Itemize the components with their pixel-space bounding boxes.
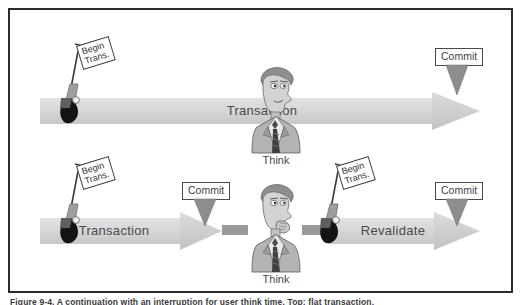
commit-down-arrow-row1: [442, 65, 476, 99]
commit-tag-row1: Commit: [435, 48, 483, 66]
thinking-person-row2: [247, 182, 305, 274]
commit-down-arrow-row2-left: [190, 199, 224, 229]
commit-label: Commit: [441, 184, 477, 196]
commit-tag-row2-right: Commit: [435, 182, 483, 200]
figure-frame: Transaction Begin Tr: [8, 8, 513, 293]
think-label-row2: Think: [246, 273, 306, 285]
figure-page: Transaction Begin Tr: [0, 0, 527, 305]
thinking-person-icon: [247, 65, 305, 155]
figure-canvas: Transaction Begin Tr: [10, 10, 511, 291]
down-arrow-icon: [442, 199, 476, 229]
commit-down-arrow-row2-right: [442, 199, 476, 229]
thinking-person-icon: [247, 182, 305, 274]
figure-caption: Figure 9-4. A continuation with an inter…: [10, 297, 520, 305]
down-arrow-icon: [442, 65, 476, 99]
thinking-person-row1: [247, 65, 305, 155]
connector-bar-left-row2: [222, 225, 248, 235]
think-label-row1: Think: [246, 154, 306, 166]
commit-label: Commit: [441, 50, 477, 62]
commit-tag-row2-left: Commit: [182, 182, 230, 200]
commit-label: Commit: [188, 184, 224, 196]
down-arrow-icon: [190, 199, 224, 229]
